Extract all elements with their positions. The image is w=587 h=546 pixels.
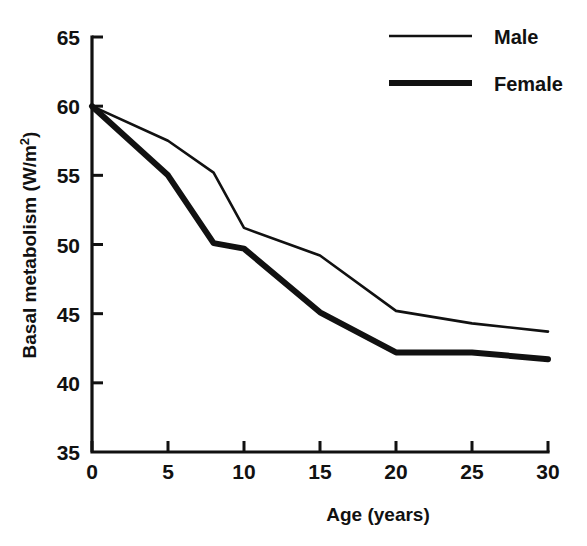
y-tick-label-60: 60 — [57, 95, 80, 118]
legend-label-male: Male — [494, 26, 538, 48]
x-tick-label-5: 5 — [162, 460, 174, 483]
y-tick-label-65: 65 — [57, 26, 81, 49]
legend-label-female: Female — [494, 73, 563, 95]
basal-metabolism-line-chart: 051015202530 35404550556065 Age (years) … — [0, 0, 587, 546]
y-axis-title-base: Basal metabolism (W/m — [19, 145, 40, 358]
x-tick-label-30: 30 — [536, 460, 559, 483]
y-tick-label-40: 40 — [57, 372, 80, 395]
y-tick-label-35: 35 — [57, 441, 81, 464]
y-axis-title-superscript: 2 — [17, 138, 32, 145]
y-tick-label-45: 45 — [57, 303, 81, 326]
x-tick-label-0: 0 — [86, 460, 98, 483]
y-axis-title-close: ) — [19, 132, 40, 138]
x-tick-label-25: 25 — [460, 460, 484, 483]
y-tick-label-55: 55 — [57, 164, 81, 187]
x-tick-label-10: 10 — [232, 460, 255, 483]
x-axis-title: Age (years) — [326, 504, 430, 525]
y-tick-label-50: 50 — [57, 234, 80, 257]
x-tick-label-20: 20 — [384, 460, 407, 483]
y-axis-title: Basal metabolism (W/m2) — [17, 132, 40, 359]
x-tick-label-15: 15 — [308, 460, 332, 483]
